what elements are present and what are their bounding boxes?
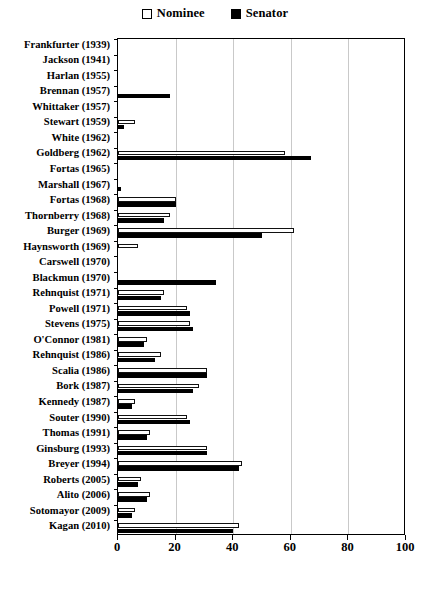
- value-tick-label: 20: [168, 541, 181, 554]
- bar-nominee: [118, 321, 190, 326]
- bar-senator: [118, 497, 147, 502]
- bar-senator: [118, 311, 190, 316]
- bar-senator: [118, 342, 144, 347]
- chart-root: Nominee Senator Frankfurter (1939)Jackso…: [0, 0, 430, 589]
- bar-nominee: [118, 430, 150, 435]
- category-tick: [114, 350, 118, 351]
- category-label: Breyer (1994): [48, 459, 110, 470]
- category-tick: [114, 458, 118, 459]
- bar-senator: [118, 435, 147, 440]
- category-label: Brennan (1957): [40, 86, 110, 97]
- category-tick: [114, 489, 118, 490]
- bar-nominee: [118, 492, 150, 497]
- value-tick-label: 60: [284, 541, 297, 554]
- category-tick: [114, 319, 118, 320]
- bar-nominee: [118, 446, 207, 451]
- category-tick: [114, 101, 118, 102]
- category-label: Goldberg (1962): [36, 148, 110, 159]
- category-tick: [114, 179, 118, 180]
- category-label: Bork (1987): [56, 381, 110, 392]
- filled-square-icon: [231, 9, 241, 19]
- category-label: Fortas (1968): [50, 195, 110, 206]
- bar-senator: [118, 404, 132, 409]
- bar-nominee: [118, 228, 294, 233]
- category-label: Burger (1969): [47, 226, 110, 237]
- bar-nominee: [118, 244, 138, 249]
- category-tick: [114, 412, 118, 413]
- category-label: Blackmun (1970): [33, 273, 110, 284]
- category-label: Stevens (1975): [45, 319, 110, 330]
- bar-nominee: [118, 120, 135, 125]
- bar-senator: [118, 482, 138, 487]
- category-tick: [114, 427, 118, 428]
- category-axis-labels: Frankfurter (1939)Jackson (1941)Harlan (…: [0, 38, 115, 535]
- bar-senator: [118, 529, 233, 534]
- category-tick: [114, 256, 118, 257]
- category-label: Haynsworth (1969): [23, 242, 110, 253]
- category-label: Kagan (2010): [49, 521, 110, 532]
- category-label: Thomas (1991): [43, 428, 110, 439]
- gridline: [176, 39, 177, 534]
- bar-nominee: [118, 508, 135, 513]
- category-tick: [114, 396, 118, 397]
- bar-senator: [118, 420, 190, 425]
- bar-senator: [118, 218, 164, 223]
- value-tick-label: 40: [226, 541, 239, 554]
- category-label: Marshall (1967): [38, 180, 110, 191]
- category-label: Fortas (1965): [50, 164, 110, 175]
- bar-senator: [118, 94, 170, 99]
- bar-nominee: [118, 290, 164, 295]
- bar-nominee: [118, 151, 285, 156]
- category-label: Souter (1990): [49, 413, 110, 424]
- category-tick: [114, 225, 118, 226]
- category-label: Rehnquist (1986): [33, 350, 110, 361]
- bar-nominee: [118, 213, 170, 218]
- value-tick-label: 80: [341, 541, 354, 554]
- bar-senator: [118, 280, 216, 285]
- bar-senator: [118, 389, 193, 394]
- category-tick: [114, 117, 118, 118]
- category-label: Jackson (1941): [43, 55, 110, 66]
- bar-nominee: [118, 337, 147, 342]
- category-label: Sotomayor (2009): [30, 506, 110, 517]
- category-tick: [114, 381, 118, 382]
- legend-label-nominee: Nominee: [157, 6, 205, 21]
- category-tick: [114, 505, 118, 506]
- bar-senator: [118, 233, 262, 238]
- chart-legend: Nominee Senator: [0, 6, 430, 21]
- bar-nominee: [118, 477, 141, 482]
- bar-senator: [118, 358, 155, 363]
- value-tick-label: 0: [114, 541, 120, 554]
- category-tick: [114, 194, 118, 195]
- legend-label-senator: Senator: [246, 6, 288, 21]
- bar-senator: [118, 513, 132, 518]
- bar-senator: [118, 296, 161, 301]
- bar-senator: [118, 451, 207, 456]
- gridline: [348, 39, 349, 534]
- gridline: [233, 39, 234, 534]
- category-tick: [114, 55, 118, 56]
- category-label: Rehnquist (1971): [33, 288, 110, 299]
- bar-nominee: [118, 399, 135, 404]
- category-label: Frankfurter (1939): [24, 40, 110, 51]
- category-tick: [114, 70, 118, 71]
- category-tick: [114, 303, 118, 304]
- legend-item-nominee: Nominee: [142, 6, 205, 21]
- legend-item-senator: Senator: [231, 6, 288, 21]
- category-tick: [114, 163, 118, 164]
- category-tick: [114, 520, 118, 521]
- category-tick: [114, 334, 118, 335]
- category-label: Stewart (1959): [44, 117, 110, 128]
- category-label: O'Connor (1981): [33, 335, 110, 346]
- category-tick: [114, 148, 118, 149]
- plot-area: [117, 38, 405, 535]
- category-label: Roberts (2005): [43, 475, 110, 486]
- bar-nominee: [118, 523, 239, 528]
- category-tick: [114, 39, 118, 40]
- bar-nominee: [118, 461, 242, 466]
- category-label: Whittaker (1957): [32, 102, 110, 113]
- bar-senator: [118, 125, 124, 130]
- bar-nominee: [118, 415, 187, 420]
- bar-senator: [118, 202, 176, 207]
- category-tick: [114, 365, 118, 366]
